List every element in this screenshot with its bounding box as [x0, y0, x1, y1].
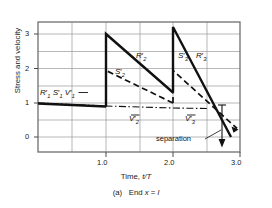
curve-label-r1-s1-v1: R′1 S′1 V′1 [40, 88, 75, 99]
ytick-label-0: 0 [25, 132, 29, 141]
grid-lines [38, 22, 240, 152]
curve-label-v2: V′2 [129, 114, 139, 125]
overbar-strokes [79, 93, 196, 116]
curve-label-r3: R′3 [196, 51, 206, 62]
caption-body: End x = l [124, 188, 159, 197]
curve-label-v3: V′3 [185, 114, 195, 125]
figure-caption: (a) End x = l [0, 188, 272, 197]
separation-annotation: separation [156, 134, 191, 143]
curve-label-s2: S′2 [115, 67, 125, 78]
separation-leader-line [205, 130, 221, 139]
ytick-label-2: 2 [25, 64, 29, 73]
ytick-label-1: 1 [25, 98, 29, 107]
curve-label-s3: S′3 [178, 51, 188, 62]
curve-label-r2: R′2 [136, 51, 146, 62]
figure-container: 3 2 1 0 1.0 2.0 3.0 Stress and velocity … [0, 0, 272, 208]
caption-prefix: (a) [113, 188, 123, 197]
x-axis-label: Time, t/T [0, 172, 272, 181]
y-axis-label: Stress and velocity [13, 16, 22, 106]
xtick-label-3: 3.0 [231, 158, 241, 167]
xtick-label-1: 1.0 [97, 158, 107, 167]
curve-r1-s1-v1 [38, 104, 106, 107]
x-axis-label-text: Time, t/T [121, 172, 151, 181]
plot-frame [38, 22, 240, 152]
ytick-label-3: 3 [25, 29, 29, 38]
xtick-label-2: 2.0 [164, 158, 174, 167]
